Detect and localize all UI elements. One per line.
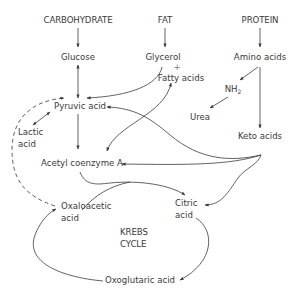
arrow-keto-acetyl (122, 155, 261, 164)
label-fat: FAT (158, 15, 172, 26)
arrow-fatty-acetyl (107, 83, 171, 151)
arrow-amino-nh2 (240, 67, 258, 80)
arrow-pyruvic-lactic (33, 112, 50, 125)
label-oxaloacetic-line1: Oxaloacetic (61, 201, 112, 212)
nh2-base: NH (225, 84, 238, 94)
label-lactic-acid-line2: acid (18, 139, 36, 150)
label-cycle: CYCLE (120, 239, 146, 250)
label-plus: + (173, 62, 180, 73)
label-fatty-acids: Fatty acids (158, 73, 204, 84)
label-acetyl-coenzyme-a: Acetyl coenzyme A (41, 158, 123, 169)
label-nh2: NH2 (225, 84, 242, 97)
label-protein: PROTEIN (242, 15, 279, 26)
label-oxoglutaric-acid: Oxoglutaric acid (105, 275, 175, 286)
label-amino-acids: Amino acids (234, 52, 286, 63)
label-urea: Urea (190, 112, 210, 123)
label-carbohydrate: CARBOHYDRATE (43, 15, 112, 26)
label-glucose: Glucose (61, 52, 95, 63)
arrow-glycerol-pyruvic (87, 67, 162, 98)
label-krebs: KREBS (120, 227, 148, 238)
arrow-keto-citric (205, 155, 261, 205)
label-citric-line1: Citric (175, 198, 197, 209)
arrow-layer (0, 0, 294, 295)
metabolism-diagram: CARBOHYDRATE FAT PROTEIN Glucose Glycero… (0, 0, 294, 295)
arrow-oxaloacetic-pyruvic-dashed (12, 98, 64, 206)
arrow-nh2-urea (210, 97, 228, 108)
nh2-subscript: 2 (238, 88, 242, 95)
label-oxaloacetic-line2: acid (61, 213, 79, 224)
label-keto-acids: Keto acids (238, 131, 282, 142)
label-lactic-acid-line1: Lactic (18, 127, 43, 138)
arrow-acetyl-citric (80, 172, 185, 195)
label-citric-line2: acid (175, 210, 193, 221)
arrow-citric-oxoglutaric (180, 218, 209, 280)
label-pyruvic-acid: Pyruvic acid (54, 101, 106, 112)
